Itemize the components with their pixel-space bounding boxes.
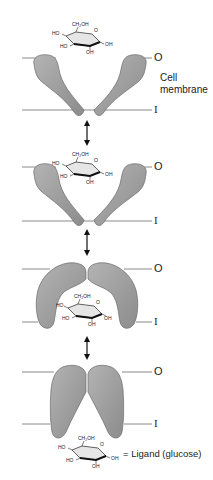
label-outside: O bbox=[154, 51, 163, 63]
label-outside: O bbox=[154, 262, 163, 274]
svg-text:CH₂OH: CH₂OH bbox=[78, 435, 95, 441]
svg-text:OH: OH bbox=[92, 463, 100, 469]
label-inside: I bbox=[154, 214, 158, 226]
transporter-subunit-right bbox=[94, 55, 146, 116]
svg-text:HO: HO bbox=[52, 30, 60, 36]
svg-text:O: O bbox=[100, 441, 104, 447]
svg-text:CH₂OH: CH₂OH bbox=[72, 151, 89, 157]
svg-text:O: O bbox=[94, 27, 98, 33]
svg-text:OH: OH bbox=[86, 179, 94, 185]
transporter-subunit-right bbox=[88, 365, 124, 438]
reversible-arrow bbox=[84, 336, 90, 360]
svg-text:HO: HO bbox=[60, 43, 68, 49]
svg-text:HO: HO bbox=[60, 173, 68, 179]
svg-text:HO: HO bbox=[62, 315, 70, 321]
svg-text:OH: OH bbox=[88, 321, 96, 327]
glucose-molecule-bound: HO CH₂OH O HO OH OH bbox=[56, 293, 112, 327]
svg-text:O: O bbox=[96, 299, 100, 305]
transporter-subunit-left bbox=[50, 365, 86, 438]
cell-membrane-label: Cell membrane bbox=[160, 72, 208, 96]
svg-text:O: O bbox=[94, 157, 98, 163]
reversible-arrow bbox=[84, 229, 90, 256]
svg-text:CH₂OH: CH₂OH bbox=[72, 21, 89, 27]
svg-text:OH: OH bbox=[111, 455, 119, 461]
glucose-molecule-released: HO CH₂OH O HO OH OH bbox=[58, 435, 119, 469]
label-inside: I bbox=[154, 103, 158, 115]
svg-text:HO: HO bbox=[66, 457, 74, 463]
glucose-molecule-bound: HO CH₂OH O HO OH OH bbox=[52, 151, 113, 185]
svg-text:HO: HO bbox=[52, 160, 60, 166]
glucose-molecule: HO CH₂OH O HO OH OH bbox=[52, 21, 113, 55]
label-inside: I bbox=[154, 315, 158, 327]
transporter-subunit-right bbox=[88, 263, 138, 329]
ligand-legend: = Ligand (glucose) bbox=[123, 448, 201, 459]
svg-text:HO: HO bbox=[56, 302, 64, 308]
cell-membrane-label-line2: membrane bbox=[160, 84, 208, 96]
reversible-arrow bbox=[84, 120, 90, 146]
svg-text:OH: OH bbox=[105, 171, 113, 177]
svg-text:CH₂OH: CH₂OH bbox=[74, 293, 91, 299]
panel-2: HO CH₂OH O HO OH OH bbox=[22, 151, 152, 226]
panel-1: HO CH₂OH O HO OH OH bbox=[22, 21, 152, 116]
svg-text:OH: OH bbox=[86, 49, 94, 55]
transporter-subunit-left bbox=[34, 55, 84, 116]
svg-text:OH: OH bbox=[105, 41, 113, 47]
cell-membrane-label-line1: Cell bbox=[160, 72, 208, 84]
svg-text:HO: HO bbox=[58, 444, 66, 450]
label-inside: I bbox=[154, 417, 158, 429]
label-outside: O bbox=[154, 365, 163, 377]
panel-3: HO CH₂OH O HO OH OH bbox=[22, 263, 152, 329]
label-outside: O bbox=[154, 160, 163, 172]
svg-text:OH: OH bbox=[104, 315, 112, 321]
